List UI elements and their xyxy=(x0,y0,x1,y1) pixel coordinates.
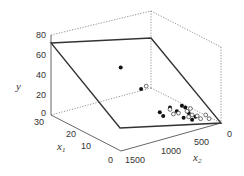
data-point-filled xyxy=(139,87,143,91)
x2-axis-label: x2 xyxy=(192,151,202,165)
data-point-open xyxy=(168,108,172,112)
axes-box xyxy=(51,11,221,123)
x2-tick-label: 0 xyxy=(227,129,232,139)
data-point-open xyxy=(207,117,211,121)
data-point-filled xyxy=(161,114,165,118)
y-tick-label: 60 xyxy=(36,50,46,60)
x1-axis-label: x1 xyxy=(56,140,65,154)
box-floor-left xyxy=(51,88,151,115)
x2-tick-label: 1500 xyxy=(125,155,145,165)
x1-tick-label: 0 xyxy=(108,155,113,165)
x1-tick-label: 20 xyxy=(66,129,76,139)
box-top-back-right xyxy=(151,11,221,47)
data-point-open xyxy=(187,115,191,119)
y-tick-label: 40 xyxy=(36,70,46,80)
data-point-filled xyxy=(182,116,186,120)
data-point-filled xyxy=(158,110,162,114)
x2-tick-label: 500 xyxy=(194,137,209,147)
data-point-open xyxy=(172,112,176,116)
data-point-filled xyxy=(119,66,123,70)
data-point-open xyxy=(189,107,193,111)
data-point-open xyxy=(195,114,199,118)
y-ticks: 80 60 40 20 0 xyxy=(36,30,46,118)
x2-tick-label: 1000 xyxy=(161,146,181,156)
y-axis-label: y xyxy=(15,80,21,92)
y-tick-label: 80 xyxy=(36,30,46,40)
3d-scatter-chart: 80 60 40 20 0 y 30 20 10 0 x1 1500 1000 … xyxy=(0,0,244,176)
x1-tick-label: 10 xyxy=(81,141,91,151)
data-point-open xyxy=(204,113,208,117)
x2-ticks: 1500 1000 500 0 xyxy=(125,129,232,165)
data-point-open xyxy=(177,111,181,115)
x1-tick-label: 30 xyxy=(34,117,44,127)
data-point-open xyxy=(185,109,189,113)
data-point-filled xyxy=(183,106,187,110)
data-point-open xyxy=(144,84,148,88)
data-point-open xyxy=(199,117,203,121)
data-point-filled xyxy=(190,118,194,122)
y-tick-label: 20 xyxy=(36,90,46,100)
data-point-filled xyxy=(180,104,184,108)
box-top-back-left xyxy=(51,11,151,35)
